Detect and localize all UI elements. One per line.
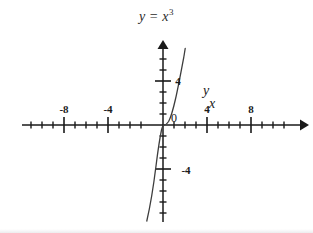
y-axis-arrowhead [158,40,169,49]
x-variable-label: x [208,96,216,111]
bottom-edge-shadow [0,229,313,233]
graph-figure: y = x3 [0,0,313,233]
origin-label: 0 [171,111,177,125]
y-label-pos4: 4 [175,75,181,87]
coordinate-plane: -8 -4 4 8 4 -4 0 y x [0,0,313,233]
x-label-neg8: -8 [59,103,69,115]
y-label-neg4: -4 [181,164,191,176]
x-label-neg4: -4 [103,103,113,115]
x-label-pos8: 8 [248,103,254,115]
x-axis-arrowhead [300,120,309,131]
